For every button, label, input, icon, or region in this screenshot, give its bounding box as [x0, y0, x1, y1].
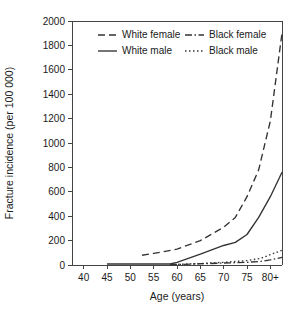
legend-label-white-male: White male: [122, 45, 172, 56]
y-axis-tick-label: 2000: [43, 16, 66, 27]
series-line-black-male: [170, 250, 282, 264]
legend-label-white-female: White female: [122, 29, 181, 40]
fracture-incidence-chart-figure: 0200400600800100012001400160018002000 40…: [0, 0, 301, 316]
legend-label-black-female: Black female: [209, 29, 267, 40]
y-axis-tick-label: 1800: [43, 40, 66, 51]
data-series-group: [107, 33, 282, 265]
chart-canvas: 0200400600800100012001400160018002000 40…: [0, 0, 301, 316]
y-axis-tick-group: 0200400600800100012001400160018002000: [43, 16, 72, 271]
x-axis-tick-label: 80+: [262, 272, 279, 283]
y-axis-title: Fracture incidence (per 100 000): [3, 67, 15, 219]
y-axis-tick-label: 400: [48, 211, 65, 222]
x-axis-tick-label: 55: [148, 272, 160, 283]
x-axis-tick-label: 45: [101, 272, 113, 283]
x-axis-tick-label: 65: [195, 272, 207, 283]
x-axis-tick-label: 50: [125, 272, 137, 283]
x-axis-tick-label: 75: [241, 272, 253, 283]
series-line-white-male: [107, 172, 282, 264]
y-axis-tick-label: 0: [59, 260, 65, 271]
x-axis-tick-label: 60: [171, 272, 183, 283]
x-axis-tick-label: 40: [78, 272, 90, 283]
y-axis-tick-label: 600: [48, 186, 65, 197]
series-line-white-female: [142, 33, 282, 255]
y-axis-tick-label: 1600: [43, 64, 66, 75]
x-axis-title: Age (years): [150, 290, 204, 302]
chart-legend: White femaleBlack femaleWhite maleBlack …: [98, 29, 267, 56]
y-axis-tick-label: 200: [48, 235, 65, 246]
x-axis-tick-group: 404550556065707580+: [78, 265, 279, 283]
x-axis-tick-label: 70: [218, 272, 230, 283]
legend-label-black-male: Black male: [209, 45, 258, 56]
y-axis-tick-label: 1400: [43, 89, 66, 100]
y-axis-tick-label: 800: [48, 162, 65, 173]
y-axis-tick-label: 1200: [43, 113, 66, 124]
y-axis-tick-label: 1000: [43, 138, 66, 149]
